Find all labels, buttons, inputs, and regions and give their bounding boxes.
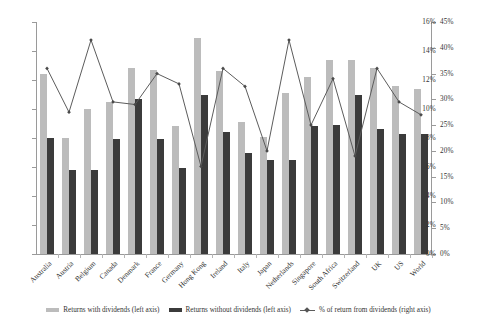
bar-south-africa-without-dividends xyxy=(333,125,340,254)
category-tick-mark xyxy=(344,254,345,258)
bar-uk-without-dividends xyxy=(377,129,384,254)
legend-label-dividend-share: % of return from dividends (right axis) xyxy=(319,306,431,314)
bar-japan-with-dividends xyxy=(260,137,267,254)
right-axis-tick-label: 5% xyxy=(440,224,450,232)
right-axis-tick-label: 45% xyxy=(440,18,454,26)
right-tick-mark xyxy=(432,151,436,152)
bar-us-with-dividends xyxy=(392,86,399,254)
right-axis-tick-label: 15% xyxy=(440,173,454,181)
left-axis-tick-label: 12% xyxy=(422,76,436,84)
right-axis-tick-label: 35% xyxy=(440,70,454,78)
left-tick-mark xyxy=(32,225,36,226)
left-tick-mark xyxy=(32,138,36,139)
bar-netherlands-without-dividends xyxy=(289,160,296,254)
left-tick-mark xyxy=(32,22,36,23)
bar-canada-without-dividends xyxy=(113,139,120,254)
category-tick-mark xyxy=(124,254,125,258)
category-tick-mark xyxy=(300,254,301,258)
bar-france-with-dividends xyxy=(150,70,157,254)
bars-layer xyxy=(36,22,432,255)
bar-denmark-with-dividends xyxy=(128,68,135,254)
right-axis-tick-label: 0% xyxy=(440,250,450,258)
right-tick-mark xyxy=(432,125,436,126)
chart-legend: Returns with dividends (left axis) Retur… xyxy=(0,306,477,314)
bar-ireland-without-dividends xyxy=(223,132,230,254)
bar-australia-with-dividends xyxy=(40,74,47,254)
left-tick-mark xyxy=(32,196,36,197)
bar-france-without-dividends xyxy=(157,139,164,254)
bar-australia-without-dividends xyxy=(47,138,54,254)
category-tick-mark xyxy=(410,254,411,258)
plot-area xyxy=(36,22,432,255)
legend-label-with-dividends: Returns with dividends (left axis) xyxy=(63,306,159,314)
left-axis-tick-label: 14% xyxy=(422,47,436,55)
category-tick-mark xyxy=(102,254,103,258)
bar-germany-without-dividends xyxy=(179,168,186,254)
bar-switzerland-with-dividends xyxy=(348,60,355,254)
bar-hong-kong-without-dividends xyxy=(201,95,208,255)
left-tick-mark xyxy=(32,109,36,110)
left-tick-mark xyxy=(32,167,36,168)
left-axis-tick-label: 4% xyxy=(426,192,436,200)
bar-us-without-dividends xyxy=(399,134,406,254)
bar-germany-with-dividends xyxy=(172,126,179,254)
category-tick-mark xyxy=(212,254,213,258)
left-axis-tick-label: 6% xyxy=(426,163,436,171)
right-tick-mark xyxy=(432,74,436,75)
category-tick-mark xyxy=(388,254,389,258)
category-tick-mark xyxy=(58,254,59,258)
legend-line-marker-icon xyxy=(300,307,315,314)
right-tick-mark xyxy=(432,99,436,100)
legend-item-without-dividends: Returns without dividends (left axis) xyxy=(169,306,291,314)
bar-austria-with-dividends xyxy=(62,138,69,254)
bar-netherlands-with-dividends xyxy=(282,93,289,254)
category-tick-mark xyxy=(366,254,367,258)
legend-swatch-without-dividends-icon xyxy=(169,308,182,312)
bar-ireland-with-dividends xyxy=(216,71,223,254)
bar-italy-with-dividends xyxy=(238,122,245,254)
bar-singapore-without-dividends xyxy=(311,126,318,254)
bar-belgium-with-dividends xyxy=(84,109,91,254)
left-axis-tick-label: 2% xyxy=(426,221,436,229)
bar-denmark-without-dividends xyxy=(135,99,142,254)
category-tick-mark xyxy=(190,254,191,258)
legend-label-without-dividends: Returns without dividends (left axis) xyxy=(186,306,291,314)
category-tick-mark xyxy=(168,254,169,258)
right-axis-tick-label: 40% xyxy=(440,44,454,52)
bar-singapore-with-dividends xyxy=(304,77,311,254)
legend-item-dividend-share: % of return from dividends (right axis) xyxy=(300,306,431,314)
bar-switzerland-without-dividends xyxy=(355,95,362,255)
category-tick-mark xyxy=(256,254,257,258)
left-axis-tick-label: 0% xyxy=(426,250,436,258)
right-axis-tick-label: 20% xyxy=(440,147,454,155)
bar-south-africa-with-dividends xyxy=(326,60,333,254)
category-tick-mark xyxy=(234,254,235,258)
left-tick-mark xyxy=(32,254,36,255)
right-tick-mark xyxy=(432,202,436,203)
right-tick-mark xyxy=(432,177,436,178)
category-tick-mark xyxy=(278,254,279,258)
legend-item-with-dividends: Returns with dividends (left axis) xyxy=(46,306,159,314)
left-tick-mark xyxy=(32,80,36,81)
bar-uk-with-dividends xyxy=(370,68,377,254)
bar-hong-kong-with-dividends xyxy=(194,38,201,254)
bar-italy-without-dividends xyxy=(245,153,252,255)
bar-canada-with-dividends xyxy=(106,102,113,254)
category-tick-mark xyxy=(80,254,81,258)
legend-swatch-with-dividends-icon xyxy=(46,308,59,312)
chart-container: 0%2%4%6%8%10%12%14%16%0%5%10%15%20%25%30… xyxy=(0,0,477,330)
right-axis-tick-label: 10% xyxy=(440,198,454,206)
left-axis-tick-label: 10% xyxy=(422,105,436,113)
category-tick-mark xyxy=(322,254,323,258)
right-axis-tick-label: 25% xyxy=(440,121,454,129)
bar-world-with-dividends xyxy=(414,89,421,254)
right-axis-tick-label: 30% xyxy=(440,95,454,103)
bar-belgium-without-dividends xyxy=(91,170,98,254)
left-axis-tick-label: 16% xyxy=(422,18,436,26)
left-axis-tick-label: 8% xyxy=(426,134,436,142)
bar-austria-without-dividends xyxy=(69,170,76,254)
bar-japan-without-dividends xyxy=(267,160,274,254)
category-tick-mark xyxy=(146,254,147,258)
left-tick-mark xyxy=(32,51,36,52)
